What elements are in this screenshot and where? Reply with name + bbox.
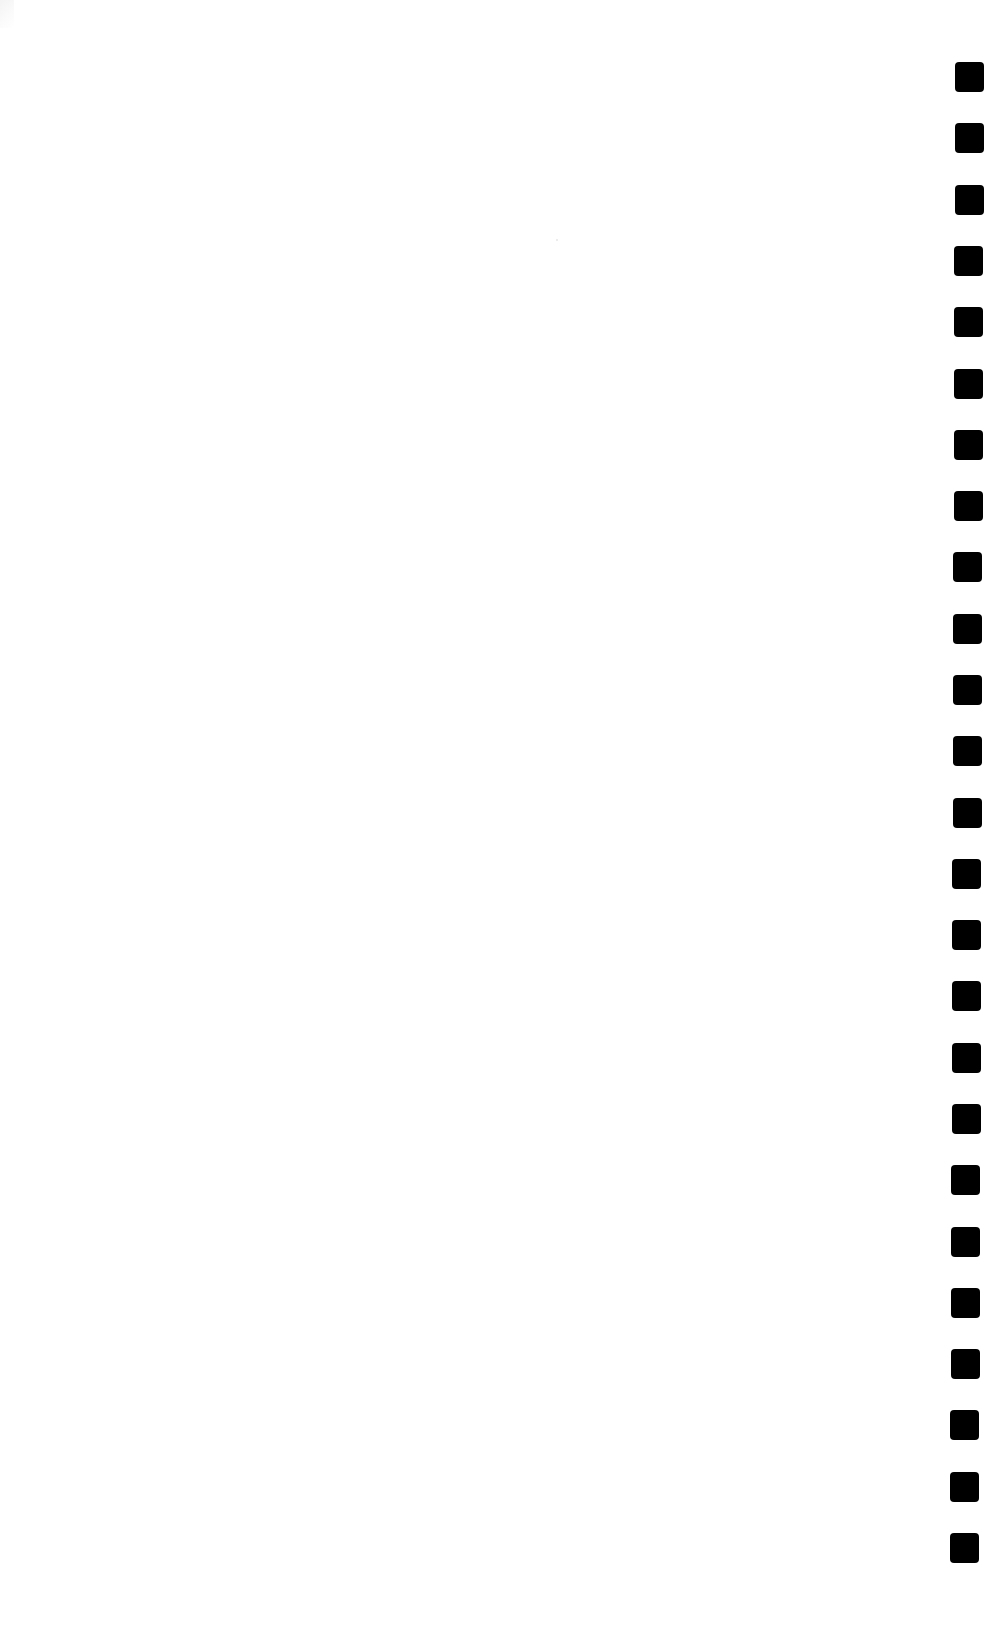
perforation-hole <box>952 981 981 1011</box>
perforation-hole <box>954 491 983 521</box>
perforation-hole <box>950 1410 979 1440</box>
perforation-hole <box>953 614 982 644</box>
perforation-hole <box>954 430 983 460</box>
perforation-hole <box>952 1104 981 1134</box>
perforation-hole <box>950 1533 979 1563</box>
perforation-hole <box>952 920 981 950</box>
perforation-hole <box>953 736 982 766</box>
perforation-hole <box>952 859 981 889</box>
perforation-hole <box>953 675 982 705</box>
scanned-page <box>0 0 998 1629</box>
perforation-hole <box>954 246 983 276</box>
perforation-strip <box>0 0 998 1629</box>
perforation-hole <box>951 1349 980 1379</box>
perforation-hole <box>955 185 984 215</box>
perforation-hole <box>954 307 983 337</box>
perforation-hole <box>953 798 982 828</box>
perforation-hole <box>955 123 984 153</box>
perforation-hole <box>951 1227 980 1257</box>
perforation-hole <box>955 62 984 92</box>
perforation-hole <box>951 1288 980 1318</box>
perforation-hole <box>950 1472 979 1502</box>
perforation-hole <box>954 369 983 399</box>
perforation-hole <box>951 1165 980 1195</box>
perforation-hole <box>953 552 982 582</box>
perforation-hole <box>952 1043 981 1073</box>
